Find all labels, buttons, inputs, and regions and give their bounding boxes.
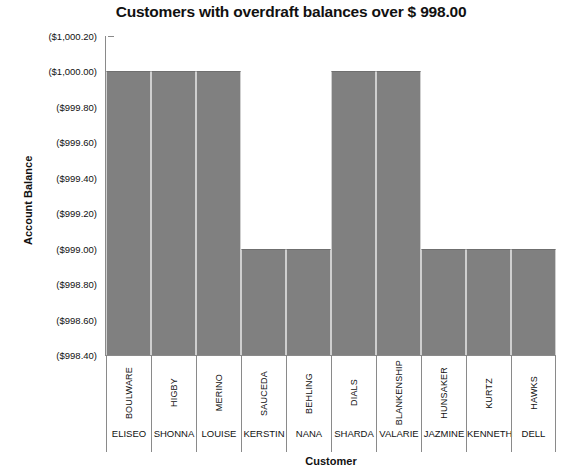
customer-first-name: KERSTIN <box>242 428 286 439</box>
customer-last-name: BEHLING <box>287 358 331 428</box>
bar[interactable] <box>106 71 151 355</box>
customer-last-name: HAWKS <box>512 358 555 428</box>
x-axis-category-labels: BOULWAREELISEOHIGBYSHONNAMERINOLOUISESAU… <box>106 356 556 452</box>
x-axis-category: DIALSSHARDA <box>331 356 376 452</box>
customer-first-name: LOUISE <box>197 428 241 439</box>
y-axis-tick-label: ($998.40) <box>11 350 97 361</box>
customer-first-name: ELISEO <box>107 428 151 439</box>
y-axis-tick-label: ($999.00) <box>11 243 97 254</box>
bar-column <box>376 36 421 355</box>
customer-first-name: SHONNA <box>152 428 196 439</box>
bar[interactable] <box>511 249 556 355</box>
y-axis-tick-label: ($1,000.20) <box>11 31 97 42</box>
customer-last-name: DIALS <box>332 358 376 428</box>
x-axis-category: KURTZKENNETH <box>466 356 511 452</box>
customer-last-name: HIGBY <box>152 358 196 428</box>
x-axis-category: MERINOLOUISE <box>196 356 241 452</box>
bar-column <box>196 36 241 355</box>
customer-first-name: NANA <box>287 428 331 439</box>
y-axis-tick-labels: ($1,000.20)($1,000.00)($999.80)($999.60)… <box>9 36 97 356</box>
x-axis-title: Customer <box>106 455 556 467</box>
bar[interactable] <box>376 71 421 355</box>
y-axis-tick-label: ($999.40) <box>11 172 97 183</box>
customer-last-name: SAUCEDA <box>242 358 286 428</box>
bar-chart: Customers with overdraft balances over $… <box>0 0 582 474</box>
x-axis-category: SAUCEDAKERSTIN <box>241 356 286 452</box>
x-axis-category: HUNSAKERJAZMINE <box>421 356 466 452</box>
bar-column <box>106 36 151 355</box>
customer-first-name: VALARIE <box>377 428 421 439</box>
bar[interactable] <box>286 249 331 355</box>
x-axis-category: BEHLINGNANA <box>286 356 331 452</box>
x-axis-category: BLANKENSHIPVALARIE <box>376 356 421 452</box>
bar-column <box>241 36 286 355</box>
customer-first-name: SHARDA <box>332 428 376 439</box>
bar-column <box>466 36 511 355</box>
x-axis-category: HAWKSDELL <box>511 356 556 452</box>
bars-layer <box>106 36 556 355</box>
x-axis-category: BOULWAREELISEO <box>106 356 151 452</box>
bar[interactable] <box>466 249 511 355</box>
bar-column <box>151 36 196 355</box>
customer-first-name: JAZMINE <box>422 428 466 439</box>
customer-last-name: BOULWARE <box>107 358 151 428</box>
chart-title: Customers with overdraft balances over $… <box>0 3 582 21</box>
bar[interactable] <box>241 249 286 355</box>
bar-column <box>286 36 331 355</box>
y-axis-tick-label: ($999.60) <box>11 137 97 148</box>
bar-column <box>421 36 466 355</box>
bar-column <box>331 36 376 355</box>
bar[interactable] <box>331 71 376 355</box>
bar[interactable] <box>151 71 196 355</box>
y-axis-tick-label: ($998.80) <box>11 279 97 290</box>
x-axis-category: HIGBYSHONNA <box>151 356 196 452</box>
y-axis-tick-label: ($1,000.00) <box>11 66 97 77</box>
customer-first-name: DELL <box>512 428 555 439</box>
y-axis-tick-label: ($998.60) <box>11 314 97 325</box>
customer-last-name: KURTZ <box>467 358 511 428</box>
bar[interactable] <box>196 71 241 355</box>
bar-column <box>511 36 556 355</box>
customer-last-name: BLANKENSHIP <box>377 358 421 428</box>
customer-first-name: KENNETH <box>467 428 511 439</box>
customer-last-name: MERINO <box>197 358 241 428</box>
customer-last-name: HUNSAKER <box>422 358 466 428</box>
y-axis-tick-label: ($999.80) <box>11 101 97 112</box>
y-axis-tick-label: ($999.20) <box>11 208 97 219</box>
bar[interactable] <box>421 249 466 355</box>
